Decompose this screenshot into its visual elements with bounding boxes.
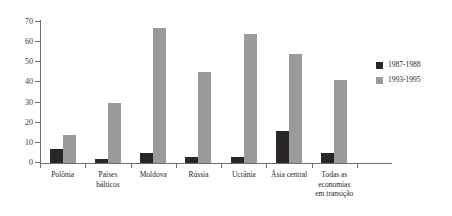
x-tick — [221, 163, 222, 168]
bar — [140, 153, 153, 163]
legend-label: 1987-1988 — [388, 61, 421, 69]
bar — [153, 28, 166, 163]
x-axis-label-line: bálticos — [85, 180, 130, 190]
x-axis-label-line: economias — [312, 180, 357, 190]
y-tick-label: 0 — [0, 159, 40, 167]
x-axis-label-line: Ucrânia — [221, 170, 266, 180]
legend-item: 1987-1988 — [376, 61, 421, 69]
legend-swatch-icon — [376, 77, 383, 84]
x-axis-label-line: Polônia — [40, 170, 85, 180]
legend-swatch-icon — [376, 62, 383, 69]
bar — [108, 103, 121, 163]
y-tick-label: 10 — [0, 139, 40, 147]
bar-groups — [40, 22, 357, 163]
x-axis-label: Ucrânia — [221, 170, 266, 199]
x-tick — [266, 163, 267, 168]
x-tick — [312, 163, 313, 168]
bar-group — [85, 22, 130, 163]
y-tick-label: 40 — [0, 78, 40, 86]
x-tick — [40, 163, 41, 168]
bar — [289, 54, 302, 163]
x-axis-label-line: Países — [85, 170, 130, 180]
bar — [50, 149, 63, 163]
x-axis-label: Paísesbálticos — [85, 170, 130, 199]
x-axis-label-line: Moldova — [131, 170, 176, 180]
x-tick — [176, 163, 177, 168]
page-edge-artifact — [0, 0, 452, 6]
x-axis-label-line: Rússia — [176, 170, 221, 180]
x-axis-label: Moldova — [131, 170, 176, 199]
x-axis-ticks — [40, 163, 392, 169]
legend-label: 1993-1995 — [388, 76, 421, 84]
x-tick — [357, 163, 358, 168]
bar-group — [266, 22, 311, 163]
x-axis-label: Ásia central — [266, 170, 311, 199]
bar — [276, 131, 289, 163]
bar-group — [176, 22, 221, 163]
bar-group — [131, 22, 176, 163]
chart-legend: 1987-19881993-1995 — [376, 61, 421, 84]
x-axis-label-line: Ásia central — [266, 170, 311, 180]
bar-group — [312, 22, 357, 163]
legend-item: 1993-1995 — [376, 76, 421, 84]
y-tick-label: 70 — [0, 18, 40, 26]
x-axis-labels: PolôniaPaísesbálticosMoldovaRússiaUcrâni… — [40, 170, 357, 199]
y-tick-label: 30 — [0, 99, 40, 107]
y-tick-label: 20 — [0, 119, 40, 127]
bar — [198, 72, 211, 163]
x-axis-label: Polônia — [40, 170, 85, 199]
bar — [321, 153, 334, 163]
bar — [334, 80, 347, 163]
chart-figure: 010203040506070 PolôniaPaísesbálticosMol… — [0, 0, 452, 216]
x-tick — [131, 163, 132, 168]
x-axis-label-line: Todas as — [312, 170, 357, 180]
y-tick-label: 60 — [0, 38, 40, 46]
x-axis-label-line: em transição — [312, 189, 357, 199]
bar-group — [221, 22, 266, 163]
y-tick-label: 50 — [0, 58, 40, 66]
bar — [63, 135, 76, 163]
x-axis-label: Todas aseconomiasem transição — [312, 170, 357, 199]
x-axis-label: Rússia — [176, 170, 221, 199]
bar-group — [40, 22, 85, 163]
plot-area: 010203040506070 — [40, 22, 357, 163]
x-tick — [85, 163, 86, 168]
bar — [244, 34, 257, 163]
